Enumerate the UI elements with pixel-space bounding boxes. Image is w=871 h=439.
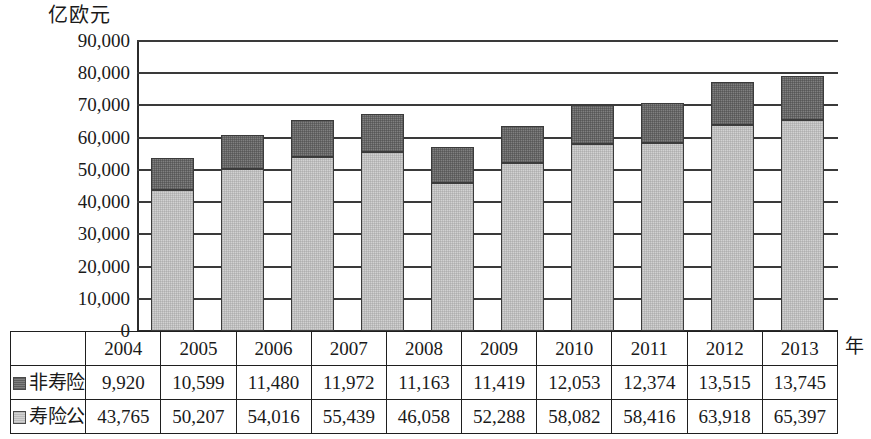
bar-segment-nonlife xyxy=(711,82,754,126)
table-cell-life: 63,918 xyxy=(687,400,762,434)
legend-nonlife-label: 非寿险公司 xyxy=(29,371,86,393)
table-row-years: 2004200520062007200820092010201120122013 xyxy=(11,332,838,366)
y-axis-tick-label: 10,000 xyxy=(10,289,130,308)
table-cell-nonlife: 11,419 xyxy=(462,366,537,400)
table-cell-life: 50,207 xyxy=(161,400,236,434)
legend-life-label: 寿险公司 xyxy=(29,405,86,427)
table-cell-nonlife: 12,374 xyxy=(612,366,687,400)
legend-swatch-nonlife-icon xyxy=(13,377,26,390)
table-row-life: 寿险公司 43,76550,20754,01655,43946,05852,28… xyxy=(11,400,838,434)
table-cell-nonlife: 13,745 xyxy=(762,366,837,400)
bar-segment-nonlife xyxy=(501,126,544,163)
table-cell-life: 58,082 xyxy=(537,400,612,434)
table-cell-nonlife: 9,920 xyxy=(86,366,161,400)
bar-segment-nonlife xyxy=(291,120,334,157)
table-cell-nonlife: 12,053 xyxy=(537,366,612,400)
legend-swatch-life-icon xyxy=(13,411,26,424)
table-header-year: 2010 xyxy=(537,332,612,366)
chart-page: 亿欧元 90,00080,00070,00060,00050,00040,000… xyxy=(0,0,871,439)
bar-segment-nonlife xyxy=(361,114,404,153)
table-cell-nonlife: 11,480 xyxy=(236,366,311,400)
bar-segment-life xyxy=(781,120,824,331)
table-header-year: 2012 xyxy=(687,332,762,366)
bar-segment-life xyxy=(711,125,754,331)
table-header-year: 2009 xyxy=(462,332,537,366)
legend-life: 寿险公司 xyxy=(11,400,86,434)
data-table-wrapper: 2004200520062007200820092010201120122013… xyxy=(10,331,838,436)
table-header-year: 2005 xyxy=(161,332,236,366)
bar-segment-life xyxy=(151,190,194,331)
y-axis-tick-label: 90,000 xyxy=(10,31,130,50)
table-header-year: 2013 xyxy=(762,332,837,366)
y-axis-tick-label: 80,000 xyxy=(10,63,130,82)
bar-segment-nonlife xyxy=(431,147,474,183)
table-header-year: 2004 xyxy=(86,332,161,366)
table-header-year: 2008 xyxy=(386,332,461,366)
y-axis-tick-labels: 90,00080,00070,00060,00050,00040,00030,0… xyxy=(6,40,130,331)
bar-segment-nonlife xyxy=(781,76,824,120)
bar-segment-nonlife xyxy=(221,135,264,169)
bar-segment-life xyxy=(641,143,684,331)
y-axis-tick-label: 30,000 xyxy=(10,224,130,243)
bar-segment-nonlife xyxy=(641,103,684,143)
table-cell-nonlife: 13,515 xyxy=(687,366,762,400)
bar-segment-nonlife xyxy=(151,158,194,190)
y-axis-tick-label: 20,000 xyxy=(10,257,130,276)
data-table: 2004200520062007200820092010201120122013… xyxy=(10,331,838,434)
bar-segment-life xyxy=(291,157,334,331)
table-header-year: 2007 xyxy=(311,332,386,366)
table-cell-life: 58,416 xyxy=(612,400,687,434)
y-axis-unit-label: 亿欧元 xyxy=(48,2,111,28)
table-cell-nonlife: 11,972 xyxy=(311,366,386,400)
bar-segment-life xyxy=(361,152,404,331)
bar-segment-life xyxy=(501,163,544,331)
x-axis-unit-label: 年 xyxy=(845,335,864,357)
table-header-year: 2006 xyxy=(236,332,311,366)
table-cell-life: 65,397 xyxy=(762,400,837,434)
table-cell-life: 55,439 xyxy=(311,400,386,434)
table-cell-nonlife: 10,599 xyxy=(161,366,236,400)
table-row-nonlife: 非寿险公司 9,92010,59911,48011,97211,16311,41… xyxy=(11,366,838,400)
bar-segment-life xyxy=(431,183,474,331)
bar-segment-life xyxy=(571,144,614,331)
legend-nonlife: 非寿险公司 xyxy=(11,366,86,400)
table-cell-life: 54,016 xyxy=(236,400,311,434)
bar-segment-life xyxy=(221,169,264,331)
table-cell-nonlife: 11,163 xyxy=(386,366,461,400)
bar-segment-nonlife xyxy=(571,105,614,144)
table-corner-cell xyxy=(11,332,86,366)
y-axis-tick-label: 60,000 xyxy=(10,128,130,147)
table-header-year: 2011 xyxy=(612,332,687,366)
y-axis-tick-label: 40,000 xyxy=(10,192,130,211)
y-axis-tick-label: 50,000 xyxy=(10,160,130,179)
table-cell-life: 43,765 xyxy=(86,400,161,434)
bar-series-container xyxy=(137,40,838,331)
y-axis-tick-label: 70,000 xyxy=(10,95,130,114)
table-cell-life: 52,288 xyxy=(462,400,537,434)
table-cell-life: 46,058 xyxy=(386,400,461,434)
